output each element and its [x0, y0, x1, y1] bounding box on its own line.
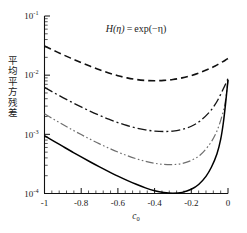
curve-dashed: [45, 46, 229, 81]
x-axis-tick-labels: -1-0.8-0.6-0.4-0.20: [41, 198, 231, 208]
x-axis-label: c0: [132, 211, 139, 222]
svg-text:10-2: 10-2: [24, 68, 38, 80]
plot-title: H(η)=exp(−η): [105, 23, 166, 35]
axis-spines: [44, 16, 228, 194]
plot-area: 10-110-210-310-4 -1-0.8-0.6-0.4-0.20 H(η…: [0, 0, 247, 233]
svg-text:-0.8: -0.8: [74, 198, 89, 208]
y-axis-tick-labels: 10-110-210-310-4: [24, 9, 38, 199]
y-axis-ticks: [45, 16, 51, 194]
svg-text:-0.4: -0.4: [147, 198, 162, 208]
svg-text:10-4: 10-4: [24, 187, 38, 199]
svg-text:-1: -1: [41, 198, 49, 208]
curve-dashdot: [45, 78, 229, 131]
svg-text:10-1: 10-1: [24, 9, 38, 21]
curve-solid: [45, 80, 229, 193]
data-curves: [45, 46, 229, 193]
svg-text:-0.6: -0.6: [111, 198, 126, 208]
svg-text:0: 0: [226, 198, 231, 208]
svg-text:10-3: 10-3: [24, 128, 38, 140]
x-axis-ticks: [45, 188, 229, 194]
svg-text:-0.2: -0.2: [184, 198, 198, 208]
chart-figure: 平均平方残差 10-110-210-310-4 -1-0.8-0.6-0.4-0…: [0, 0, 247, 233]
